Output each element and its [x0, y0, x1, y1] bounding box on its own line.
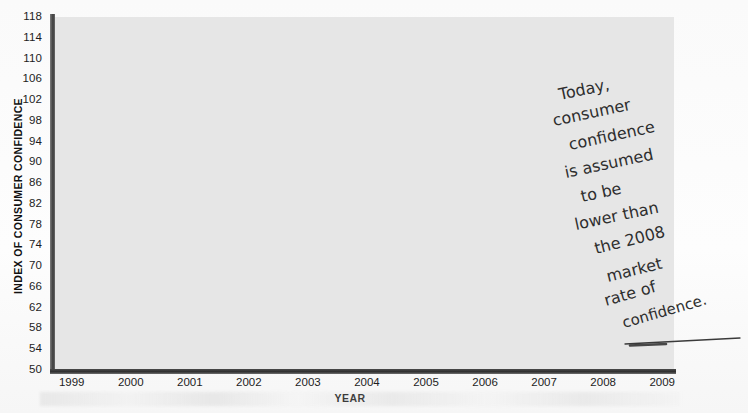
x-tick-2005: 2005 — [396, 376, 456, 388]
x-tick-2001: 2001 — [160, 376, 220, 388]
x-tick-2000: 2000 — [101, 376, 161, 388]
chart-page: 5054586266707478828690949810210611011411… — [0, 0, 748, 413]
y-axis-title: INDEX OF CONSUMER CONFIDENCE — [12, 51, 24, 341]
x-tick-2006: 2006 — [455, 376, 515, 388]
x-tick-2009: 2009 — [632, 376, 692, 388]
x-tick-2003: 2003 — [278, 376, 338, 388]
x-tick-2008: 2008 — [573, 376, 633, 388]
x-tick-2007: 2007 — [514, 376, 574, 388]
x-tick-2004: 2004 — [337, 376, 397, 388]
scan-smudge — [40, 392, 680, 406]
annotation-leader-line — [620, 330, 748, 370]
x-tick-1999: 1999 — [42, 376, 102, 388]
x-tick-2002: 2002 — [219, 376, 279, 388]
